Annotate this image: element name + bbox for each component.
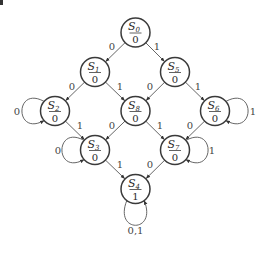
self-loop-label: 1 <box>250 106 256 117</box>
self-loop-label: 0 <box>14 106 20 117</box>
edge-label: 1 <box>157 120 163 131</box>
edge-label: 1 <box>77 120 83 131</box>
state-output: 0 <box>92 152 98 163</box>
state-output: 0 <box>132 113 138 124</box>
state-node-s4: S41 <box>121 175 150 204</box>
self-loop-label: 1 <box>209 145 215 156</box>
edge-label: 1 <box>154 41 160 52</box>
state-node-s2: S20 <box>41 97 70 126</box>
edge-label: 0 <box>69 81 75 92</box>
state-diagram: S00S10S50S20S80S60S30S70S41 010101101010… <box>0 0 269 253</box>
edge-label: 1 <box>195 81 201 92</box>
edge-label: 0 <box>109 120 115 131</box>
edge-label: 0 <box>147 81 153 92</box>
edge-label: 1 <box>117 159 123 170</box>
state-output: 0 <box>92 74 98 85</box>
state-output: 0 <box>172 152 178 163</box>
state-node-s7: S70 <box>161 136 190 165</box>
edge-label: 1 <box>117 81 123 92</box>
transition-labels: 01010110101001010,1 <box>14 41 256 236</box>
state-output: 1 <box>132 191 138 202</box>
self-loop-label: 0,1 <box>128 225 144 236</box>
state-output: 0 <box>132 34 138 45</box>
state-node-s1: S10 <box>81 58 110 87</box>
self-loop-label: 0 <box>55 145 61 156</box>
edge-label: 0 <box>147 159 153 170</box>
state-output: 0 <box>212 113 218 124</box>
edge-label: 0 <box>109 41 115 52</box>
edge-label: 0 <box>187 120 193 131</box>
state-output: 0 <box>52 113 58 124</box>
state-node-s3: S30 <box>81 136 110 165</box>
state-node-s5: S50 <box>161 58 190 87</box>
state-node-s0: S00 <box>121 18 150 47</box>
state-nodes: S00S10S50S20S80S60S30S70S41 <box>41 18 230 204</box>
self-loop-s4 <box>124 201 146 226</box>
state-node-s8: S80 <box>121 97 150 126</box>
state-output: 0 <box>172 74 178 85</box>
state-node-s6: S60 <box>201 97 230 126</box>
